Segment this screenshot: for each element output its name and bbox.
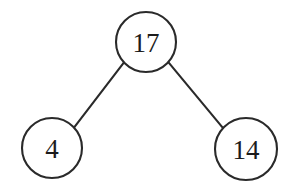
node-root-label: 17 — [133, 28, 160, 58]
node-left-child-label: 4 — [45, 134, 59, 164]
edge-root-to-left — [74, 62, 124, 127]
node-root[interactable]: 17 — [116, 12, 176, 72]
binary-tree-figure: 17 4 14 — [0, 0, 288, 185]
edge-root-to-right — [168, 62, 223, 129]
tree-canvas: 17 4 14 — [0, 0, 288, 185]
node-right-child-label: 14 — [233, 135, 261, 165]
node-left-child[interactable]: 4 — [22, 118, 82, 178]
node-right-child[interactable]: 14 — [215, 118, 277, 180]
